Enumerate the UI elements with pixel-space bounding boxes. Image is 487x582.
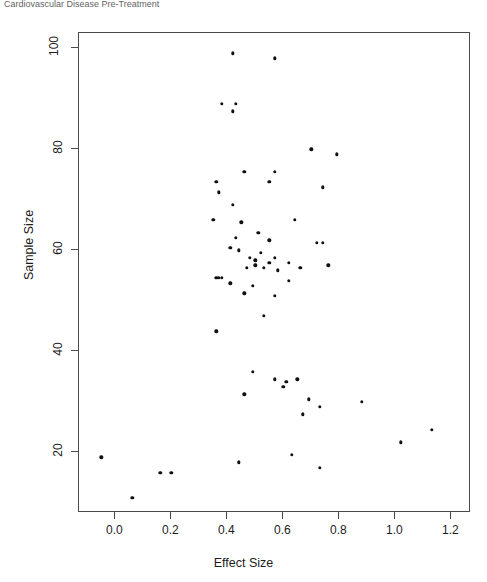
data-point [296,377,299,380]
data-point [237,249,240,252]
data-point [273,256,276,259]
data-point [217,190,220,193]
data-point [326,264,329,267]
x-axis-tick-label: 1.0 [369,523,419,537]
data-point [310,148,313,151]
data-point [214,180,217,183]
data-point [237,461,240,464]
data-point [321,241,324,244]
y-axis-tick-mark [71,249,78,250]
data-point [282,385,285,388]
data-point [268,238,271,241]
data-point [430,428,433,431]
x-axis-title: Effect Size [0,556,487,570]
data-point [298,266,301,269]
data-point [268,261,271,264]
data-point [220,276,223,279]
data-point [231,110,234,113]
x-axis-tick-label: 0.8 [313,523,363,537]
y-axis-tick-mark [71,148,78,149]
y-axis-tick-label: 60 [0,241,64,255]
data-point [318,405,321,408]
data-point [100,456,103,459]
data-point [273,294,276,297]
data-point [130,496,133,499]
y-axis-tick-label: 80 [0,140,64,154]
data-point [234,102,237,105]
x-axis-tick-label: 0.2 [145,523,195,537]
data-point [251,370,254,373]
data-point [256,231,259,234]
data-point [259,251,262,254]
data-point [315,241,318,244]
x-axis-tick-label: 1.2 [425,523,475,537]
data-point [287,261,290,264]
x-axis-tick-mark [114,512,115,519]
y-axis-tick-mark [71,350,78,351]
data-point [273,377,276,380]
x-axis-tick-label: 0.0 [89,523,139,537]
data-point [287,279,290,282]
data-point [231,52,234,55]
data-point [231,203,234,206]
y-axis-tick-mark [71,451,78,452]
data-point [248,256,251,259]
data-point [214,329,217,332]
y-axis-tick-label: 100 [0,39,64,53]
data-point [290,453,293,456]
data-point [254,259,257,262]
x-axis-tick-mark [226,512,227,519]
data-point [268,180,271,183]
x-axis-tick-label: 0.6 [257,523,307,537]
data-point [399,441,402,444]
data-point [158,471,161,474]
data-point [240,221,243,224]
x-axis-tick-mark [282,512,283,519]
x-axis-tick-mark [170,512,171,519]
data-point [318,466,321,469]
data-point [234,236,237,239]
data-point [307,398,310,401]
data-point [262,266,265,269]
data-point [228,281,231,284]
plot-area [78,32,470,512]
y-axis-tick-label: 40 [0,342,64,356]
x-axis-tick-mark [450,512,451,519]
data-point [276,269,279,272]
data-point [293,218,296,221]
data-point [170,471,173,474]
data-point [321,185,324,188]
data-point [220,102,223,105]
data-point [360,400,363,403]
data-point [212,218,215,221]
x-axis-tick-label: 0.4 [201,523,251,537]
data-point [262,314,265,317]
scatter-plot-figure: Cardiovascular Disease Pre-Treatment Sam… [0,0,487,582]
data-point [228,246,231,249]
data-point [254,264,257,267]
data-point [245,266,248,269]
x-axis-tick-mark [394,512,395,519]
y-axis-tick-mark [71,47,78,48]
x-axis-tick-mark [338,512,339,519]
data-point [284,380,287,383]
data-point [242,170,245,173]
data-point [251,284,254,287]
data-point [301,413,304,416]
data-point [273,57,276,60]
data-point [242,393,245,396]
data-point [242,292,245,295]
data-point [335,153,338,156]
figure-caption: Cardiovascular Disease Pre-Treatment [4,0,234,7]
data-point [273,170,276,173]
y-axis-tick-label: 20 [0,443,64,457]
